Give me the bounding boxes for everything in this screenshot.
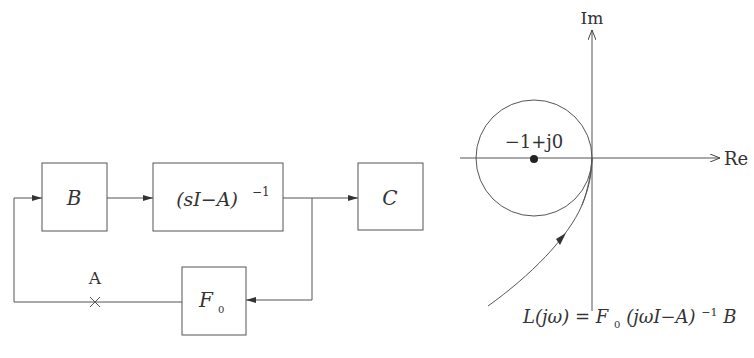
figure-canvas: B (sI−A) −1 C F 0 A Im Re −1+j0 L(jω) = …	[0, 0, 754, 358]
critical-point-label: −1+j0	[505, 131, 564, 152]
imag-axis-label: Im	[581, 8, 604, 28]
loop-mid: (jωI−A)	[626, 306, 696, 327]
break-point-label: A	[88, 268, 102, 288]
nyquist-plot	[460, 30, 720, 311]
block-b-label: B	[66, 186, 82, 210]
loop-sub: 0	[614, 319, 620, 330]
block-f0	[182, 267, 246, 335]
block-c-label: C	[382, 186, 397, 210]
loop-transfer-label: L(jω) = F 0 (jωI−A) −1 B	[522, 299, 737, 332]
block-resolvent-label: (sI−A)	[176, 188, 238, 210]
loop-exp: −1	[701, 306, 717, 319]
block-f0-label: F	[198, 288, 214, 312]
feedback-return-line	[14, 198, 95, 302]
block-f0-subscript: 0	[218, 304, 224, 315]
resolvent-exponent: −1	[252, 185, 270, 199]
nyquist-curve	[488, 158, 592, 306]
feedback-branch-line	[246, 198, 312, 300]
loop-tail: B	[722, 306, 736, 327]
critical-point-dot	[530, 155, 538, 163]
loop-lhs: L(jω) = F	[522, 306, 610, 327]
real-axis-label: Re	[724, 148, 748, 169]
resolvent-main: (sI−A)	[176, 188, 238, 210]
